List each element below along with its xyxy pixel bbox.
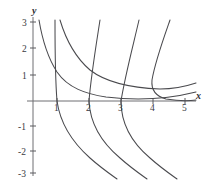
y-tick-label-2: 2 bbox=[22, 44, 27, 54]
y-tick-label-1: 1 bbox=[22, 71, 27, 81]
x-tick-label-4: 4 bbox=[150, 103, 155, 113]
y-tick-label-neg1: -1 bbox=[18, 122, 26, 132]
y-axis-label: y bbox=[31, 5, 37, 16]
x-tick-label-2: 2 bbox=[86, 103, 91, 113]
plot-canvas: 1 2 3 4 5 3 2 1 -1 -2 -3 y x bbox=[0, 0, 206, 184]
y-tick-label-neg3: -3 bbox=[18, 169, 26, 179]
plot-figure: 1 2 3 4 5 3 2 1 -1 -2 -3 y x bbox=[0, 0, 206, 184]
decay-curve-2 bbox=[60, 20, 196, 89]
y-tick-label-neg2: -2 bbox=[18, 147, 26, 157]
x-tick-labels: 1 2 3 4 5 bbox=[54, 103, 187, 113]
curve-family-decay bbox=[39, 20, 196, 99]
x-axis-label: x bbox=[195, 90, 201, 101]
steep-curve-1 bbox=[55, 20, 117, 179]
x-tick-label-3: 3 bbox=[118, 103, 123, 113]
x-tick-label-1: 1 bbox=[54, 103, 59, 113]
y-tick-labels: 3 2 1 -1 -2 -3 bbox=[18, 18, 27, 179]
y-tick-label-3: 3 bbox=[22, 18, 27, 28]
decay-curve-1 bbox=[39, 20, 196, 99]
curve-family-steep bbox=[55, 20, 196, 179]
x-tick-label-5: 5 bbox=[182, 103, 187, 113]
